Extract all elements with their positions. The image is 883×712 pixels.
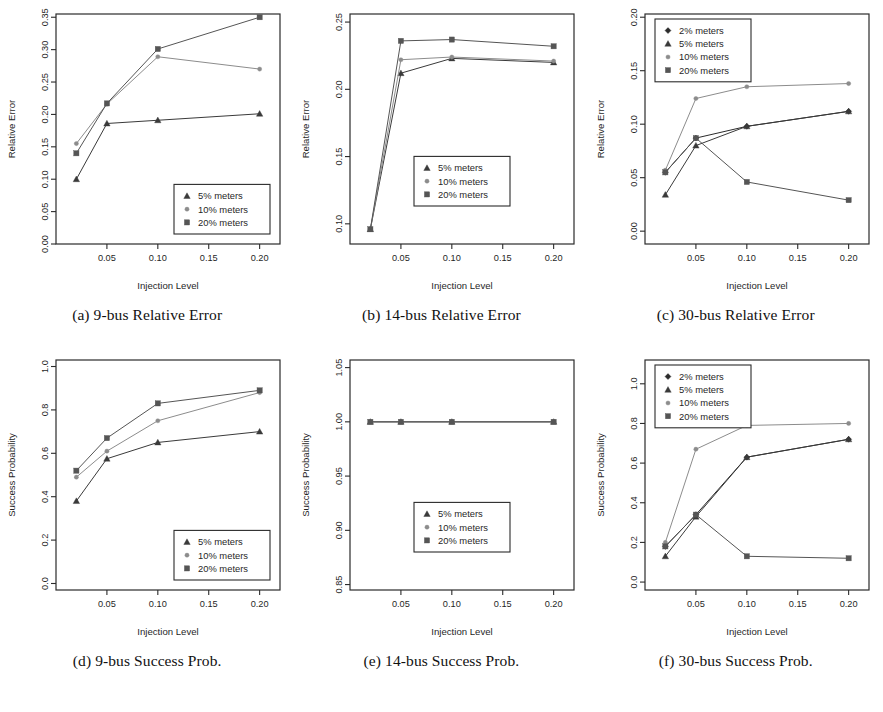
- y-tick-label: 0.8: [41, 404, 51, 417]
- data-point: [662, 544, 667, 549]
- data-point: [257, 15, 262, 20]
- chart-e: 0.050.100.150.200.850.900.951.001.05Inje…: [294, 346, 588, 646]
- legend-label: 5% meters: [198, 536, 243, 547]
- y-axis-label: Relative Error: [6, 99, 17, 158]
- data-point: [368, 419, 373, 424]
- plot-f: 0.050.100.150.200.00.20.40.60.81.0Inject…: [589, 346, 883, 646]
- legend-marker-square-icon: [185, 220, 190, 225]
- y-tick-label: 0.95: [335, 467, 345, 485]
- data-point: [846, 556, 851, 561]
- subfigure-e: 0.050.100.150.200.850.900.951.001.05Inje…: [294, 346, 588, 692]
- x-tick-label: 0.05: [98, 599, 116, 609]
- series-20--meters: [368, 419, 556, 424]
- plot-d: 0.050.100.150.200.00.20.40.60.81.0Inject…: [0, 346, 294, 646]
- x-tick-label: 0.20: [251, 599, 269, 609]
- y-tick-label: 0.10: [335, 215, 345, 233]
- y-tick-label: 0.05: [41, 203, 51, 221]
- caption-a: (a) 9-bus Relative Error: [72, 300, 222, 346]
- y-tick-label: 0.35: [41, 8, 51, 26]
- y-tick-label: 1.0: [41, 360, 51, 373]
- series-line: [665, 423, 848, 542]
- caption-f: (f) 30-bus Success Prob.: [659, 646, 813, 692]
- x-tick-label: 0.15: [789, 253, 807, 263]
- legend-label: 20% meters: [438, 189, 488, 200]
- caption-e: (e) 14-bus Success Prob.: [364, 646, 520, 692]
- chart-a: 0.050.100.150.200.000.050.100.150.200.25…: [0, 0, 294, 300]
- x-axis-label: Injection Level: [726, 280, 787, 291]
- y-axis-label: Success Probability: [300, 433, 311, 517]
- series-10--meters: [663, 421, 850, 544]
- y-tick-label: 0.30: [41, 41, 51, 59]
- series-line: [77, 390, 260, 470]
- y-tick-label: 0.20: [41, 105, 51, 123]
- data-point: [156, 419, 160, 423]
- data-point: [74, 468, 79, 473]
- x-tick-label: 0.20: [545, 253, 563, 263]
- data-point: [73, 176, 79, 182]
- data-point: [744, 179, 749, 184]
- data-point: [450, 419, 455, 424]
- y-axis-label: Relative Error: [300, 99, 311, 158]
- chart-c: 0.050.100.150.200.000.050.100.150.20Inje…: [589, 0, 883, 300]
- legend: 5% meters10% meters20% meters: [174, 530, 270, 580]
- legend-label: 20% meters: [438, 535, 488, 546]
- y-tick-label: 0.2: [41, 534, 51, 547]
- figure-panel-grid: 0.050.100.150.200.000.050.100.150.200.25…: [0, 0, 883, 712]
- plot-e: 0.050.100.150.200.850.900.951.001.05Inje…: [294, 346, 588, 646]
- y-axis-label: Relative Error: [595, 99, 606, 158]
- caption-b: (b) 14-bus Relative Error: [362, 300, 521, 346]
- y-tick-label: 0.15: [629, 62, 639, 80]
- plot-c: 0.050.100.150.200.000.050.100.150.20Inje…: [589, 0, 883, 300]
- data-point: [693, 512, 698, 517]
- series-line: [665, 111, 848, 194]
- legend-marker-circle-icon: [666, 55, 670, 59]
- data-point: [74, 151, 79, 156]
- data-point: [155, 46, 160, 51]
- y-tick-label: 0.4: [41, 490, 51, 503]
- legend-marker-square-icon: [425, 538, 430, 543]
- x-tick-label: 0.10: [149, 599, 167, 609]
- x-tick-label: 0.15: [200, 253, 218, 263]
- chart-b: 0.050.100.150.200.100.150.200.25Injectio…: [294, 0, 588, 300]
- data-point: [744, 554, 749, 559]
- y-tick-label: 0.00: [41, 235, 51, 253]
- data-point: [694, 447, 698, 451]
- y-tick-label: 0.10: [41, 170, 51, 188]
- chart-f: 0.050.100.150.200.00.20.40.60.81.0Inject…: [589, 346, 883, 646]
- y-tick-label: 0.20: [629, 8, 639, 26]
- series-line: [77, 114, 260, 179]
- x-tick-label: 0.20: [251, 253, 269, 263]
- x-tick-label: 0.10: [738, 253, 756, 263]
- subfigure-f: 0.050.100.150.200.00.20.40.60.81.0Inject…: [589, 346, 883, 692]
- legend-label: 10% meters: [679, 51, 729, 62]
- data-point: [846, 81, 850, 85]
- y-tick-label: 0.0: [629, 576, 639, 589]
- data-point: [694, 96, 698, 100]
- series-line: [665, 138, 848, 200]
- subfigure-a: 0.050.100.150.200.000.050.100.150.200.25…: [0, 0, 294, 346]
- data-point: [74, 141, 78, 145]
- legend-label: 5% meters: [679, 384, 724, 395]
- x-axis-label: Injection Level: [137, 626, 198, 637]
- x-axis-label: Injection Level: [432, 626, 493, 637]
- data-point: [257, 428, 263, 434]
- subfigure-c: 0.050.100.150.200.000.050.100.150.20Inje…: [589, 0, 883, 346]
- y-tick-label: 0.2: [629, 536, 639, 549]
- data-point: [693, 135, 698, 140]
- series-20--meters: [74, 15, 262, 156]
- caption-d: (d) 9-bus Success Prob.: [73, 646, 222, 692]
- plot-frame: [350, 360, 574, 590]
- x-axis-label: Injection Level: [137, 280, 198, 291]
- data-point: [155, 401, 160, 406]
- x-tick-label: 0.20: [545, 599, 563, 609]
- series-line: [77, 17, 260, 153]
- legend-label: 5% meters: [679, 38, 724, 49]
- y-tick-label: 0.15: [41, 138, 51, 156]
- legend-label: 10% meters: [679, 397, 729, 408]
- legend: 5% meters10% meters20% meters: [174, 184, 270, 234]
- legend-label: 5% meters: [438, 508, 483, 519]
- chart-d: 0.050.100.150.200.00.20.40.60.81.0Inject…: [0, 346, 294, 646]
- data-point: [662, 192, 668, 198]
- x-tick-label: 0.10: [443, 253, 461, 263]
- series-2--meters: [662, 108, 851, 175]
